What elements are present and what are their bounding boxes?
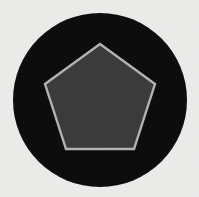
pentagon-in-circle-figure	[0, 0, 199, 197]
figure-canvas	[0, 0, 199, 197]
paper-grain-overlay	[0, 0, 199, 197]
